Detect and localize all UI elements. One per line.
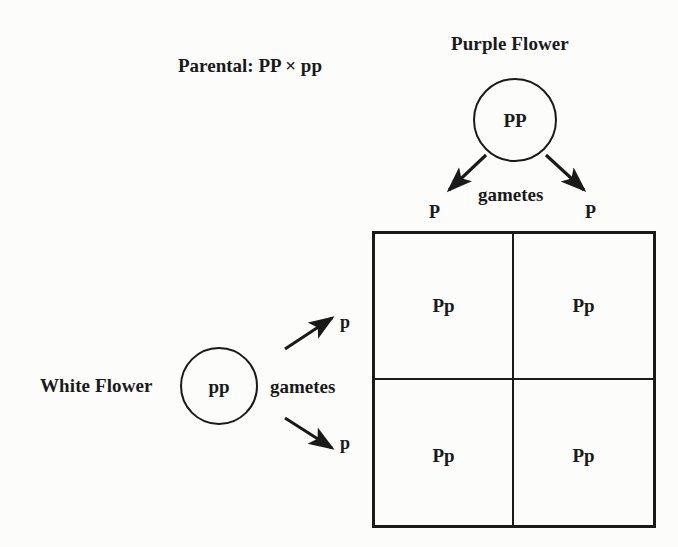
purple-gamete-right: P bbox=[585, 203, 596, 221]
punnett-cell-row0-col0: Pp bbox=[375, 234, 514, 380]
punnett-cell-text: Pp bbox=[572, 446, 594, 465]
white-flower-label: White Flower bbox=[40, 376, 153, 395]
white-gametes-label: gametes bbox=[270, 377, 335, 396]
purple-parent-genotype-circle: PP bbox=[473, 78, 557, 162]
punnett-cell-text: Pp bbox=[432, 296, 454, 315]
arrow-white-gamete-bottom bbox=[285, 418, 332, 448]
arrow-purple-gamete-right bbox=[546, 155, 584, 190]
purple-gametes-label: gametes bbox=[478, 185, 543, 204]
purple-gamete-left: P bbox=[429, 203, 440, 221]
white-parent-genotype-circle: pp bbox=[180, 347, 258, 425]
parental-cross-label: Parental: PP × pp bbox=[178, 56, 322, 75]
punnett-cell-row0-col1: Pp bbox=[514, 234, 653, 380]
white-gamete-bottom: p bbox=[340, 434, 350, 452]
punnett-cell-row1-col1: Pp bbox=[514, 380, 653, 526]
purple-flower-label: Purple Flower bbox=[451, 34, 569, 53]
white-parent-genotype-text: pp bbox=[208, 377, 229, 396]
punnett-square-grid: Pp Pp Pp Pp bbox=[372, 231, 656, 528]
punnett-cell-text: Pp bbox=[432, 446, 454, 465]
punnett-cell-text: Pp bbox=[572, 296, 594, 315]
white-gamete-top: p bbox=[340, 313, 350, 331]
punnett-cell-row1-col0: Pp bbox=[375, 380, 514, 526]
purple-parent-genotype-text: PP bbox=[503, 111, 526, 130]
arrow-white-gamete-top bbox=[285, 318, 332, 349]
punnett-square-diagram: Parental: PP × pp Purple Flower PP gamet… bbox=[0, 0, 678, 547]
